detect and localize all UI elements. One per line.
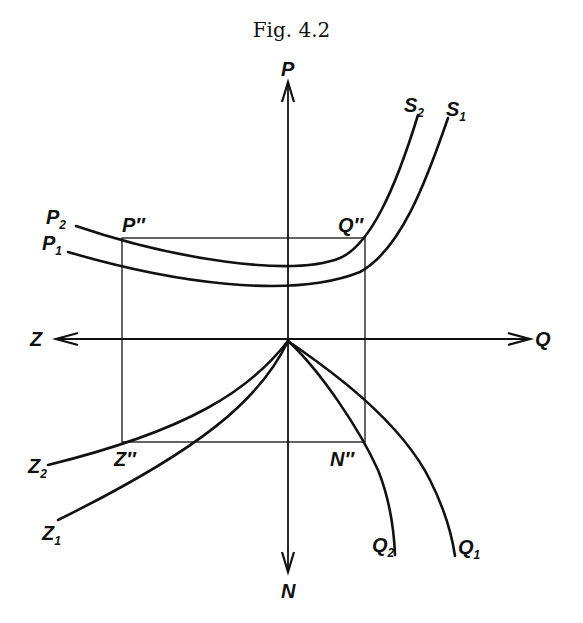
- axis-label-p: P: [281, 58, 295, 80]
- corner-label-q-double-prime: Q″: [338, 214, 365, 236]
- diagram-canvas: P N Z Q P″ Q″ Z″ N″ P2 P1 S2 S1 Z2 Z1 Q2…: [0, 0, 583, 623]
- corner-label-p-double-prime: P″: [122, 214, 146, 236]
- curve-label-p2: P2: [46, 206, 66, 232]
- axis-label-n: N: [281, 580, 296, 602]
- curve-p1-s1: [68, 118, 448, 286]
- curve-z1: [58, 341, 288, 520]
- axis-label-z: Z: [29, 328, 43, 350]
- curve-p2-s2: [76, 115, 418, 266]
- curve-label-z1: Z1: [41, 522, 61, 548]
- curve-label-q2: Q2: [372, 534, 395, 560]
- curve-label-s2: S2: [404, 94, 424, 120]
- curve-label-z2: Z2: [27, 455, 47, 481]
- corner-label-z-double-prime: Z″: [113, 448, 137, 470]
- curve-label-p1: P1: [42, 232, 62, 258]
- axis-label-q: Q: [535, 328, 551, 350]
- curve-label-s1: S1: [446, 98, 466, 124]
- curve-q1: [288, 341, 455, 556]
- corner-label-n-double-prime: N″: [330, 448, 355, 470]
- curve-label-q1: Q1: [458, 536, 481, 562]
- curve-z2: [48, 341, 288, 465]
- projection-rectangle: [122, 238, 365, 442]
